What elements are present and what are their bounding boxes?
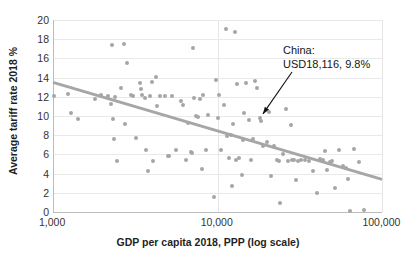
scatter-point <box>151 159 155 163</box>
scatter-point <box>106 94 110 98</box>
scatter-point <box>184 158 188 162</box>
scatter-point <box>230 184 234 188</box>
scatter-point <box>344 166 348 170</box>
scatter-point <box>196 115 200 119</box>
scatter-point <box>337 148 341 152</box>
trendline <box>53 82 382 179</box>
scatter-point <box>122 42 126 46</box>
scatter-point <box>241 138 245 142</box>
scatter-point <box>265 140 269 144</box>
scatter-point <box>66 92 70 96</box>
scatter-point <box>233 30 237 34</box>
scatter-point <box>186 121 190 125</box>
scatter-point <box>179 99 183 103</box>
scatter-point <box>216 116 220 120</box>
y-axis-title: Average tariff rate 2018 % <box>7 16 19 206</box>
scatter-point <box>357 160 361 164</box>
scatter-point <box>93 97 97 101</box>
scatter-point <box>192 96 196 100</box>
scatter-point <box>272 144 276 148</box>
scatter-point <box>212 195 216 199</box>
scatter-point <box>163 94 167 98</box>
scatter-point <box>292 158 296 162</box>
scatter-point <box>76 117 80 121</box>
scatter-point <box>113 95 117 99</box>
scatter-point <box>219 148 223 152</box>
scatter-point <box>217 93 221 97</box>
scatter-point <box>247 118 251 122</box>
scatter-chart: 02468101214161820 1,00010,000100,000 Chi… <box>0 0 416 262</box>
scatter-point <box>123 122 127 126</box>
scatter-point <box>110 43 114 47</box>
scatter-point <box>214 78 218 82</box>
scatter-point <box>143 96 147 100</box>
scatter-point <box>240 173 244 177</box>
scatter-point <box>109 102 113 106</box>
scatter-point <box>267 110 271 114</box>
scatter-point <box>170 94 174 98</box>
scatter-point <box>174 148 178 152</box>
scatter-point <box>311 169 315 173</box>
scatter-point <box>198 97 202 101</box>
china-annotation-line1: China: <box>283 44 315 57</box>
scatter-point <box>323 149 327 153</box>
scatter-point <box>269 174 273 178</box>
x-axis-title: GDP per capita 2018, PPP (log scale) <box>0 236 416 248</box>
scatter-point <box>125 61 129 65</box>
scatter-point <box>277 159 281 163</box>
scatter-point <box>299 158 303 162</box>
scatter-point <box>154 75 158 79</box>
scatter-point <box>229 133 233 137</box>
scatter-point <box>204 148 208 152</box>
scatter-point <box>200 167 204 171</box>
scatter-point <box>315 191 319 195</box>
scatter-point <box>224 27 228 31</box>
china-annotation-line2: USD18,116, 9.8% <box>283 58 370 71</box>
scatter-point <box>111 117 115 121</box>
scatter-point <box>131 94 135 98</box>
scatter-point <box>289 123 293 127</box>
chart-canvas <box>0 0 416 262</box>
scatter-point <box>325 168 329 172</box>
scatter-point <box>99 93 103 97</box>
scatter-point <box>191 46 195 50</box>
